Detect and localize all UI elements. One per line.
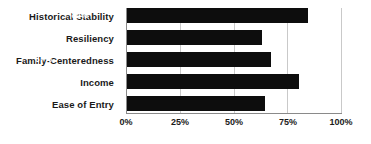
gridline-100 (341, 8, 342, 114)
category-label-ease-of-entry: Ease of Entry (52, 96, 114, 113)
x-tick-25: 25% (171, 116, 189, 129)
category-label-family-centeredness: Family-Centeredness (16, 52, 114, 69)
bar-historical-stability (127, 8, 308, 23)
category-label-resiliency: Resiliency (66, 30, 114, 47)
category-axis-labels: Historical Stability Resiliency Family-C… (0, 8, 120, 113)
x-axis-tick-labels: 0% 25% 50% 75% 100% (0, 116, 371, 130)
bar-ease-of-entry (127, 96, 265, 111)
x-tick-75: 75% (279, 116, 297, 129)
bar-resiliency (127, 30, 262, 45)
bar-value-historical-stability: 84% (72, 8, 89, 23)
bar-income (127, 74, 299, 89)
bar-value-income: 80% (63, 74, 80, 89)
plot-area: 84% 63% 67% 80% 64% (126, 8, 341, 113)
x-tick-50: 50% (225, 116, 243, 129)
x-tick-100: 100% (329, 116, 352, 129)
category-label-income: Income (80, 74, 114, 91)
x-axis-line (126, 113, 342, 114)
gridline-75 (287, 8, 288, 114)
bar-value-family-centeredness: 67% (35, 52, 52, 67)
x-tick-0: 0% (119, 116, 132, 129)
bar-value-resiliency: 63% (26, 30, 43, 45)
bar-value-ease-of-entry: 64% (29, 96, 46, 111)
bar-family-centeredness (127, 52, 271, 67)
horizontal-bar-chart: Historical Stability Resiliency Family-C… (0, 0, 371, 144)
